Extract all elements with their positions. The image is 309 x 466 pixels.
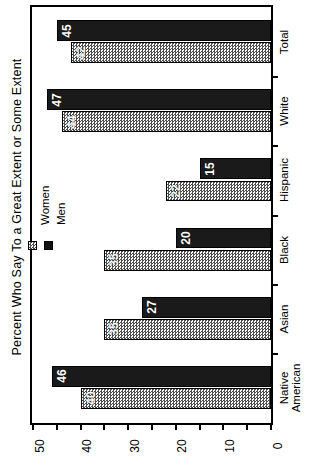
- bar-men-hispanic: 15: [200, 158, 271, 179]
- category-tick: [271, 284, 278, 286]
- chart-figure: Percent Who Say To a Great Extent or Som…: [0, 0, 309, 466]
- value-tick: [175, 423, 177, 430]
- bar-value-label: 22: [170, 184, 182, 197]
- bar-group: 47: [32, 89, 271, 110]
- bar-value-label: 20: [179, 231, 191, 244]
- category-tick: [271, 215, 278, 217]
- bar-value-label: 35: [108, 253, 120, 266]
- bar-value-label: 46: [56, 370, 68, 383]
- legend-label-men: Men: [55, 165, 67, 225]
- chart-legend: WomenMen: [27, 186, 61, 252]
- value-tick: [199, 423, 201, 430]
- value-axis-label: 20: [175, 431, 189, 461]
- bar-group: 42: [32, 42, 271, 63]
- bar-men-black: 20: [176, 228, 271, 249]
- category-label: Native American: [278, 343, 302, 433]
- bar-group: 35: [32, 250, 271, 271]
- value-tick: [270, 423, 272, 430]
- bar-value-label: 15: [203, 162, 215, 175]
- value-tick: [80, 423, 82, 430]
- legend-swatch-men: [44, 241, 53, 250]
- bar-women-total: 42: [71, 42, 271, 63]
- category-tick: [271, 145, 278, 147]
- bar-value-label: 42: [75, 46, 87, 59]
- bar-group: 35: [32, 319, 271, 340]
- value-axis-label: 50: [33, 431, 47, 461]
- value-tick: [32, 423, 34, 430]
- bar-men-total: 45: [57, 20, 271, 41]
- bar-women-black: 35: [104, 250, 271, 271]
- bar-group: 40: [32, 388, 271, 409]
- bar-men-white: 47: [47, 89, 271, 110]
- value-axis-label: 30: [128, 431, 142, 461]
- bar-value-label: 44: [65, 115, 77, 128]
- bar-value-label: 45: [60, 24, 72, 37]
- category-tick: [271, 76, 278, 78]
- bar-group: 44: [32, 111, 271, 132]
- value-tick: [127, 423, 129, 430]
- bar-group: 22: [32, 181, 271, 202]
- legend-entry: Men: [43, 186, 59, 250]
- value-axis-label: 40: [80, 431, 94, 461]
- bar-men-asian: 27: [142, 297, 271, 318]
- bar-value-label: 47: [51, 93, 63, 106]
- legend-entry: Women: [27, 186, 43, 250]
- bar-men-native-american: 46: [52, 366, 271, 387]
- value-tick: [222, 423, 224, 430]
- bar-women-hispanic: 22: [166, 181, 271, 202]
- value-tick: [56, 423, 58, 430]
- bar-women-asian: 35: [104, 319, 271, 340]
- value-tick: [103, 423, 105, 430]
- bar-value-label: 40: [84, 392, 96, 405]
- bar-group: 15: [32, 158, 271, 179]
- bar-value-label: 27: [146, 300, 158, 313]
- bar-group: 45: [32, 20, 271, 41]
- bar-women-native-american: 40: [81, 388, 271, 409]
- bar-group: 27: [32, 297, 271, 318]
- legend-swatch-women: [28, 241, 37, 250]
- value-axis-label: 10: [223, 431, 237, 461]
- bar-value-label: 35: [108, 323, 120, 336]
- value-tick: [246, 423, 248, 430]
- value-tick: [151, 423, 153, 430]
- bar-group: 46: [32, 366, 271, 387]
- value-axis-label: 0: [271, 431, 285, 461]
- y-axis-title: Percent Who Say To a Great Extent or Som…: [6, 0, 28, 440]
- bar-group: 20: [32, 228, 271, 249]
- bar-women-white: 44: [62, 111, 271, 132]
- category-tick: [271, 353, 278, 355]
